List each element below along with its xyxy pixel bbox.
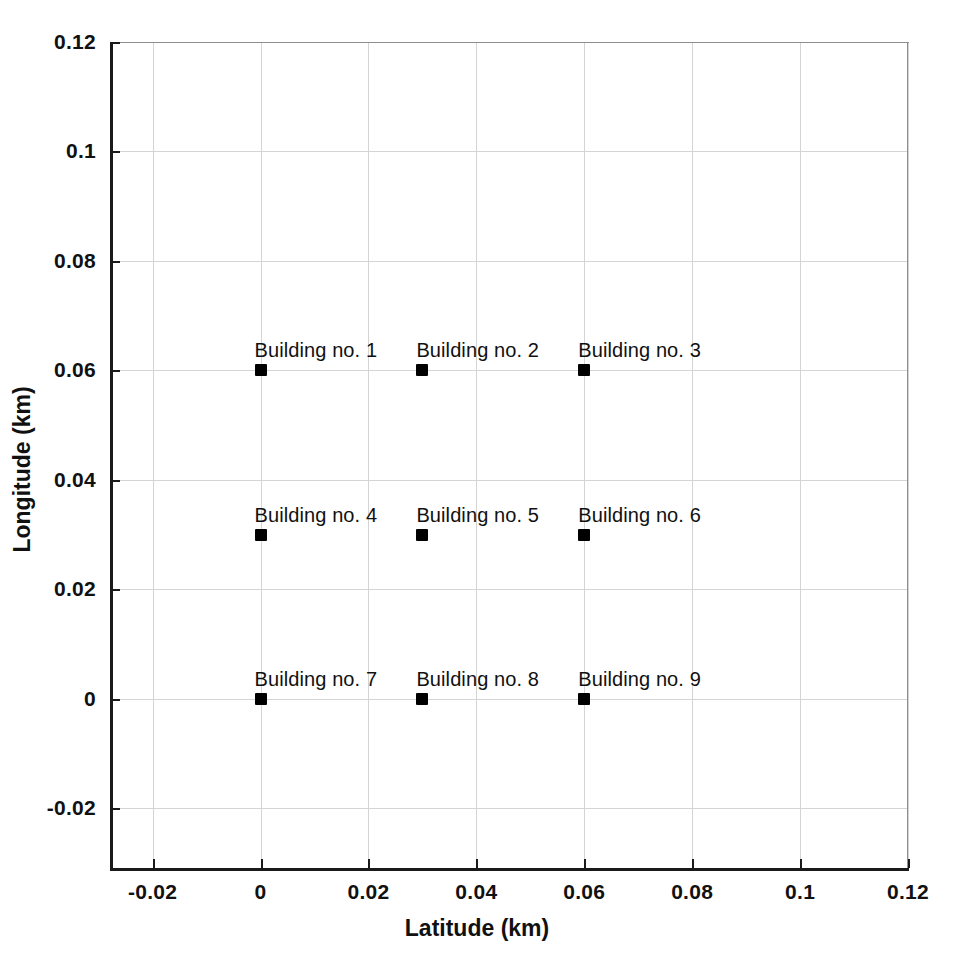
data-point-label: Building no. 1 — [255, 339, 378, 362]
x-tick — [476, 859, 478, 868]
y-axis-title: Longitude (km) — [9, 320, 36, 620]
y-tick — [111, 370, 120, 372]
data-point-label: Building no. 7 — [255, 668, 378, 691]
axis-spine-bottom — [110, 868, 909, 871]
data-point-marker[interactable] — [255, 364, 267, 376]
gridline-vertical — [692, 42, 693, 870]
y-tick — [111, 589, 120, 591]
y-tick-label: 0.1 — [66, 139, 96, 163]
y-tick — [111, 151, 120, 153]
axis-spine-top — [110, 42, 909, 43]
axis-spine-right — [907, 42, 908, 871]
gridline-vertical — [584, 42, 585, 870]
data-point-label: Building no. 2 — [416, 339, 539, 362]
gridline-horizontal — [110, 480, 908, 481]
data-point-label: Building no. 3 — [578, 339, 701, 362]
data-point-marker[interactable] — [416, 364, 428, 376]
gridline-horizontal — [110, 370, 908, 371]
x-tick-label: 0.08 — [671, 880, 713, 904]
gridline-horizontal — [110, 808, 908, 809]
x-tick — [584, 859, 586, 868]
gridline-horizontal — [110, 699, 908, 700]
y-tick — [111, 42, 120, 44]
data-point-label: Building no. 9 — [578, 668, 701, 691]
x-tick-label: 0.02 — [347, 880, 389, 904]
gridline-horizontal — [110, 151, 908, 152]
y-tick-label: 0.04 — [54, 468, 96, 492]
x-tick — [692, 859, 694, 868]
x-tick-label: 0 — [255, 880, 267, 904]
x-tick-label: -0.02 — [128, 880, 177, 904]
gridline-horizontal — [110, 589, 908, 590]
data-point-label: Building no. 5 — [416, 504, 539, 527]
x-tick — [800, 859, 802, 868]
data-point-marker[interactable] — [255, 529, 267, 541]
y-tick — [111, 480, 120, 482]
x-tick-label: 0.1 — [785, 880, 815, 904]
y-tick — [111, 699, 120, 701]
data-point-label: Building no. 4 — [255, 504, 378, 527]
gridline-vertical — [476, 42, 477, 870]
x-tick — [908, 859, 910, 868]
data-point-marker[interactable] — [578, 529, 590, 541]
plot-area: Building no. 1Building no. 2Building no.… — [110, 42, 908, 870]
x-axis-title: Latitude (km) — [0, 915, 954, 942]
data-point-marker[interactable] — [578, 693, 590, 705]
figure-canvas: Building no. 1Building no. 2Building no.… — [0, 0, 954, 968]
gridline-vertical — [800, 42, 801, 870]
y-tick-label: -0.02 — [47, 796, 96, 820]
y-tick — [111, 261, 120, 263]
x-tick-label: 0.12 — [887, 880, 929, 904]
data-point-marker[interactable] — [578, 364, 590, 376]
data-point-marker[interactable] — [255, 693, 267, 705]
data-point-label: Building no. 6 — [578, 504, 701, 527]
data-point-label: Building no. 8 — [416, 668, 539, 691]
data-point-marker[interactable] — [416, 529, 428, 541]
gridline-vertical — [261, 42, 262, 870]
y-tick-label: 0.06 — [54, 358, 96, 382]
axis-spine-left — [110, 42, 113, 871]
x-tick-label: 0.06 — [563, 880, 605, 904]
x-tick — [261, 859, 263, 868]
gridline-vertical — [153, 42, 154, 870]
gridline-vertical — [908, 42, 909, 870]
y-tick-label: 0.08 — [54, 249, 96, 273]
gridline-horizontal — [110, 261, 908, 262]
gridline-vertical — [368, 42, 369, 870]
y-tick-label: 0.02 — [54, 577, 96, 601]
y-tick — [111, 808, 120, 810]
x-tick — [153, 859, 155, 868]
data-point-marker[interactable] — [416, 693, 428, 705]
x-tick — [368, 859, 370, 868]
x-tick-label: 0.04 — [455, 880, 497, 904]
y-tick-label: 0 — [84, 687, 96, 711]
y-tick-label: 0.12 — [54, 30, 96, 54]
